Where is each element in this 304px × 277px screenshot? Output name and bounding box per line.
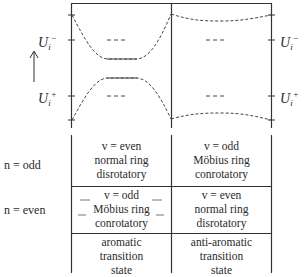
cell-n-odd-left: v = even normal ring disrotatory [72, 139, 171, 181]
cell-aromatic: aromatic transition state [72, 235, 171, 277]
curve-left-lower [72, 78, 171, 120]
row-label-n-even: n = even [4, 204, 45, 217]
up-arrow-icon [30, 51, 38, 82]
cell-n-even-right: v = even normal ring disrotatory [172, 188, 271, 230]
label-upper-level-right: Ui− [280, 32, 299, 54]
curve-right-upper [171, 14, 271, 21]
row-label-n-odd: n = odd [4, 159, 41, 172]
cell-anti-aromatic: anti-aromatic transition state [172, 235, 271, 277]
curve-right-lower [171, 113, 271, 120]
cell-n-odd-right: v = odd Möbius ring conrotatory [172, 139, 271, 181]
label-upper-level-left: Ui− [38, 32, 57, 54]
label-lower-level-left: Ui+ [38, 88, 57, 110]
label-lower-level-right: Ui+ [280, 88, 299, 110]
cell-n-even-left: v = odd Möbius ring conrotatory [72, 188, 171, 230]
curve-left-upper [72, 14, 171, 59]
reference-level-dashes [107, 40, 224, 96]
